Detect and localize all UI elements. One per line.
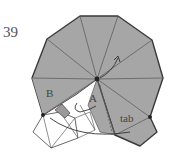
- center-point-icon: [95, 77, 100, 82]
- label-a: A: [89, 92, 97, 104]
- reference-point-icon: [148, 115, 152, 119]
- label-tab: tab: [120, 112, 134, 124]
- reference-point-icon: [41, 113, 45, 117]
- origami-diagram: B A tab: [0, 0, 174, 157]
- label-b: B: [46, 87, 53, 99]
